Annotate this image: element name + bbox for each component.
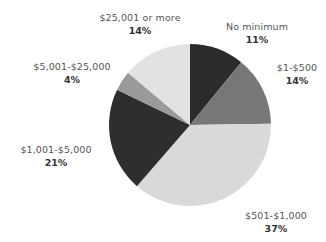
pie-slices — [109, 44, 271, 206]
slice-percent: 37% — [245, 222, 307, 235]
slice-percent: 11% — [226, 33, 288, 46]
pie-chart: No minimum 11% $1-$500 14% $501-$1,000 3… — [0, 0, 326, 242]
slice-percent: 14% — [99, 24, 180, 37]
slice-name: $1,001-$5,000 — [20, 143, 91, 156]
slice-name: $5,001-$25,000 — [33, 60, 110, 73]
label-no-minimum: No minimum 11% — [226, 20, 288, 46]
label-5001-25000: $5,001-$25,000 4% — [33, 60, 110, 86]
slice-percent: 14% — [277, 74, 317, 87]
slice-name: $25,001 or more — [99, 11, 180, 24]
slice-name: $1-$500 — [277, 61, 317, 74]
slice-percent: 4% — [33, 73, 110, 86]
label-1001-5000: $1,001-$5,000 21% — [20, 143, 91, 169]
label-25001-or-more: $25,001 or more 14% — [99, 11, 180, 37]
label-1-500: $1-$500 14% — [277, 61, 317, 87]
label-501-1000: $501-$1,000 37% — [245, 209, 307, 235]
slice-percent: 21% — [20, 156, 91, 169]
slice-name: $501-$1,000 — [245, 209, 307, 222]
slice-name: No minimum — [226, 20, 288, 33]
